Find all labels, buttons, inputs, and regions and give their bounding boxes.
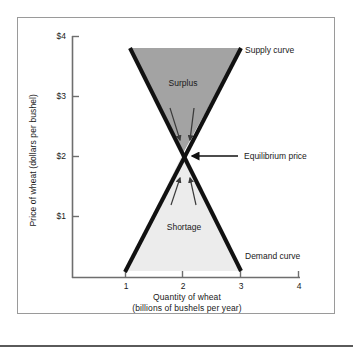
x-tick-label-2: 2 <box>173 281 193 291</box>
surplus-label: Surplus <box>157 78 209 88</box>
x-tick-label-4: 4 <box>289 281 309 291</box>
y-tick-label-3: $3 <box>44 91 66 101</box>
demand-curve-label: Demand curve <box>245 251 300 261</box>
x-axis-title: Quantity of wheat (billions of bushels p… <box>72 292 302 313</box>
x-tick-label-3: 3 <box>231 281 251 291</box>
supply-demand-figure: $4 $3 $2 $1 1 2 3 4 Price of wheat (doll… <box>0 0 353 353</box>
equilibrium-price-label: Equilibrium price <box>244 151 307 161</box>
shortage-label: Shortage <box>155 222 213 232</box>
y-tick-label-1: $1 <box>44 211 66 221</box>
y-axis-title: Price of wheat (dollars per bushel) <box>28 60 39 260</box>
x-tick-label-1: 1 <box>116 281 136 291</box>
y-tick-label-2: $2 <box>44 151 66 161</box>
surplus-region <box>130 48 241 155</box>
x-axis-title-line2: (billions of bushels per year) <box>72 303 302 314</box>
x-axis-title-line1: Quantity of wheat <box>72 292 302 303</box>
shortage-region <box>125 155 241 271</box>
supply-curve-label: Supply curve <box>245 45 294 55</box>
y-tick-label-4: $4 <box>44 31 66 41</box>
bottom-rule-divider <box>0 345 353 347</box>
